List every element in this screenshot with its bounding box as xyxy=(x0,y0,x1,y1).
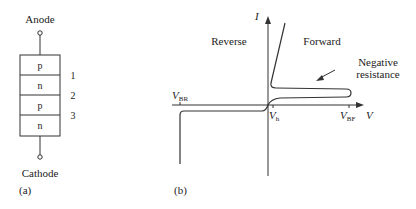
v-axis-arrow-icon xyxy=(356,102,364,108)
layer-2-label: n xyxy=(38,80,43,91)
v-axis-label: V xyxy=(366,109,374,121)
vbr-label: VBR xyxy=(172,89,188,103)
layer-4-label: n xyxy=(38,120,43,131)
region-reverse-label: Reverse xyxy=(211,35,247,47)
junction-3-label: 3 xyxy=(71,110,76,121)
anode-label: Anode xyxy=(25,13,54,25)
annotation-line-1: Negative xyxy=(358,56,398,68)
i-axis-label: I xyxy=(254,10,260,22)
i-axis-arrow-icon xyxy=(265,16,271,24)
region-forward-label: Forward xyxy=(303,35,341,47)
caption-b: (b) xyxy=(174,184,187,197)
diagram-canvas: Anode p n p n 1 2 3 Cathode (a) I V xyxy=(0,0,416,209)
vh-label: Vh xyxy=(269,109,280,123)
panel-a: Anode p n p n 1 2 3 Cathode (a) xyxy=(19,13,76,197)
cathode-label: Cathode xyxy=(22,167,59,179)
layer-3-label: p xyxy=(38,100,43,111)
annotation-arrow-icon xyxy=(316,75,324,81)
junction-1-label: 1 xyxy=(71,70,76,81)
vbf-label: VBF xyxy=(340,109,355,123)
layer-1-label: p xyxy=(38,60,43,71)
junction-2-label: 2 xyxy=(71,90,76,101)
cathode-terminal-icon xyxy=(38,155,42,159)
anode-terminal-icon xyxy=(38,31,42,35)
caption-a: (a) xyxy=(19,184,32,197)
panel-b: I V Reverse Forward Negative resistance … xyxy=(172,10,400,197)
annotation-line-2: resistance xyxy=(356,68,399,80)
